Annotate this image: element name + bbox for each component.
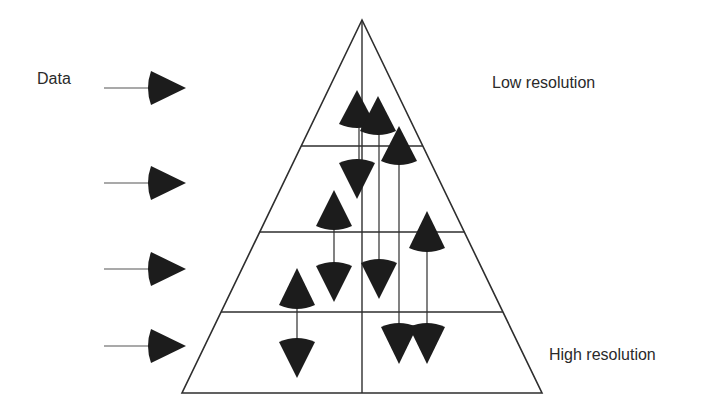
cone-up-marker-icon (316, 190, 352, 230)
cone-down-marker-icon (361, 259, 397, 299)
input-arrowhead-icon (148, 252, 186, 286)
cone-down-marker-icon (316, 262, 352, 302)
low-resolution-label: Low resolution (492, 74, 595, 92)
cone-up-marker-icon (279, 268, 315, 309)
cone-down-marker-icon (279, 338, 315, 378)
input-arrowhead-icon (148, 329, 186, 363)
cone-down-marker-icon (339, 159, 375, 199)
input-arrowhead-icon (148, 71, 186, 105)
high-resolution-label: High resolution (549, 346, 656, 364)
cone-down-marker-icon (409, 323, 445, 364)
data-label: Data (37, 70, 71, 88)
input-arrowhead-icon (148, 166, 186, 200)
